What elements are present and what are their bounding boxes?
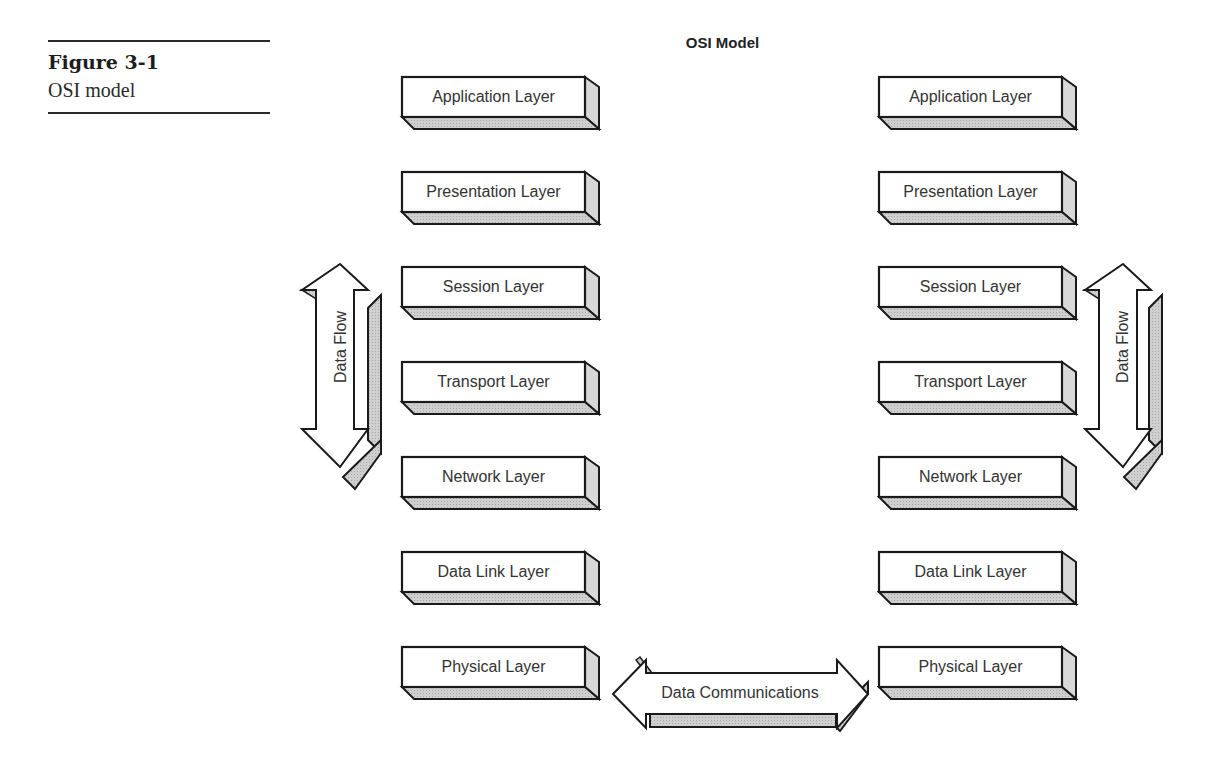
layer-label: Data Link Layer	[437, 563, 550, 580]
osi-diagram: Application LayerPresentation LayerSessi…	[0, 0, 1215, 764]
layer-label: Presentation Layer	[903, 183, 1038, 200]
layer-label: Physical Layer	[441, 658, 546, 675]
left-layer-box-session-layer: Session Layer	[402, 267, 599, 319]
left-layer-box-network-layer: Network Layer	[402, 457, 599, 509]
left-data-flow-arrow: Data Flow	[302, 264, 381, 489]
right-layer-box-data-link-layer: Data Link Layer	[879, 552, 1076, 604]
left-data-flow-label: Data Flow	[332, 311, 349, 383]
box-bottom-face	[402, 117, 599, 129]
left-osi-stack: Application LayerPresentation LayerSessi…	[402, 77, 599, 699]
data-communications-label: Data Communications	[661, 684, 818, 701]
right-data-flow-arrow: Data Flow	[1085, 264, 1162, 489]
left-layer-box-physical-layer: Physical Layer	[402, 647, 599, 699]
right-layer-box-presentation-layer: Presentation Layer	[879, 172, 1076, 224]
box-bottom-face	[879, 592, 1076, 604]
left-layer-box-data-link-layer: Data Link Layer	[402, 552, 599, 604]
right-layer-box-transport-layer: Transport Layer	[879, 362, 1076, 414]
layer-label: Application Layer	[432, 88, 555, 105]
right-layer-box-physical-layer: Physical Layer	[879, 647, 1076, 699]
box-bottom-face	[879, 402, 1076, 414]
left-layer-box-transport-layer: Transport Layer	[402, 362, 599, 414]
box-bottom-face	[879, 307, 1076, 319]
left-layer-box-presentation-layer: Presentation Layer	[402, 172, 599, 224]
layer-label: Physical Layer	[918, 658, 1023, 675]
layer-label: Transport Layer	[437, 373, 550, 390]
layer-label: Transport Layer	[914, 373, 1027, 390]
box-bottom-face	[402, 687, 599, 699]
box-bottom-face	[402, 402, 599, 414]
right-osi-stack: Application LayerPresentation LayerSessi…	[879, 77, 1076, 699]
layer-label: Data Link Layer	[914, 563, 1027, 580]
box-bottom-face	[879, 212, 1076, 224]
left-layer-box-application-layer: Application Layer	[402, 77, 599, 129]
box-bottom-face	[402, 212, 599, 224]
box-bottom-face	[402, 497, 599, 509]
layer-label: Application Layer	[909, 88, 1032, 105]
right-layer-box-network-layer: Network Layer	[879, 457, 1076, 509]
right-layer-box-session-layer: Session Layer	[879, 267, 1076, 319]
layer-label: Presentation Layer	[426, 183, 561, 200]
box-bottom-face	[402, 307, 599, 319]
layer-label: Session Layer	[920, 278, 1022, 295]
box-bottom-face	[879, 687, 1076, 699]
right-data-flow-label: Data Flow	[1114, 311, 1131, 383]
box-bottom-face	[879, 117, 1076, 129]
right-layer-box-application-layer: Application Layer	[879, 77, 1076, 129]
box-bottom-face	[402, 592, 599, 604]
layer-label: Session Layer	[443, 278, 545, 295]
data-communications-arrow: Data Communications	[613, 657, 868, 731]
layer-label: Network Layer	[919, 468, 1023, 485]
layer-label: Network Layer	[442, 468, 546, 485]
box-bottom-face	[879, 497, 1076, 509]
